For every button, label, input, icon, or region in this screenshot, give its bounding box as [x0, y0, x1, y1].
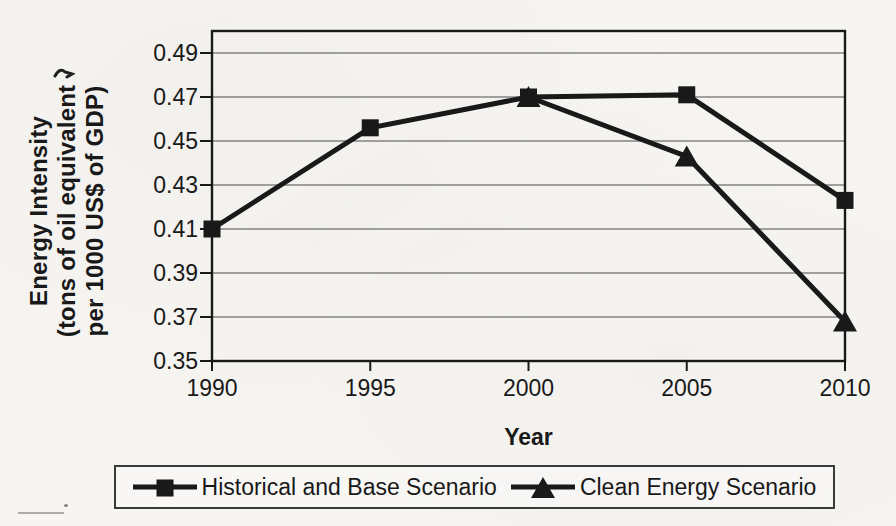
- x-axis-title: Year: [212, 424, 845, 451]
- legend-item: Historical and Base Scenario: [133, 474, 497, 501]
- legend-item: Clean Energy Scenario: [511, 474, 817, 501]
- square-data-marker: [204, 221, 221, 238]
- series-line-square: [212, 95, 845, 229]
- square-data-marker: [678, 86, 695, 103]
- legend-square-marker: [156, 480, 173, 497]
- scanned-chart-figure: Energy Intensity (tons of oil equivalent…: [0, 0, 896, 526]
- y-tick-label: 0.39: [128, 260, 198, 286]
- legend-item-label: Historical and Base Scenario: [202, 474, 497, 501]
- square-data-marker: [362, 119, 379, 136]
- y-axis-title: Energy Intensity (tons of oil equivalent…: [25, 41, 111, 381]
- scan-dot-artifact: [64, 504, 68, 507]
- x-tick-label: 2000: [484, 375, 574, 401]
- x-tick-label: 1995: [325, 375, 415, 401]
- square-data-marker: [520, 89, 537, 106]
- plot-border: [212, 31, 845, 361]
- x-tick-label: 2010: [800, 375, 890, 401]
- square-data-marker: [837, 192, 854, 209]
- x-tick-label: 2005: [642, 375, 732, 401]
- legend: Historical and Base ScenarioClean Energy…: [114, 465, 835, 509]
- ink-blot-artifact: [53, 65, 75, 81]
- y-tick-label: 0.47: [128, 84, 198, 110]
- y-tick-label: 0.35: [128, 348, 198, 374]
- square-marker-icon: [133, 475, 197, 499]
- x-tick-label: 1990: [167, 375, 257, 401]
- y-tick-label: 0.45: [128, 128, 198, 154]
- triangle-marker-icon: [511, 475, 575, 499]
- y-tick-label: 0.43: [128, 172, 198, 198]
- legend-item-label: Clean Energy Scenario: [580, 474, 817, 501]
- y-tick-label: 0.37: [128, 304, 198, 330]
- y-tick-label: 0.49: [128, 40, 198, 66]
- series-line-triangle: [529, 97, 846, 321]
- scan-dash-artifact: [18, 512, 64, 514]
- y-tick-label: 0.41: [128, 216, 198, 242]
